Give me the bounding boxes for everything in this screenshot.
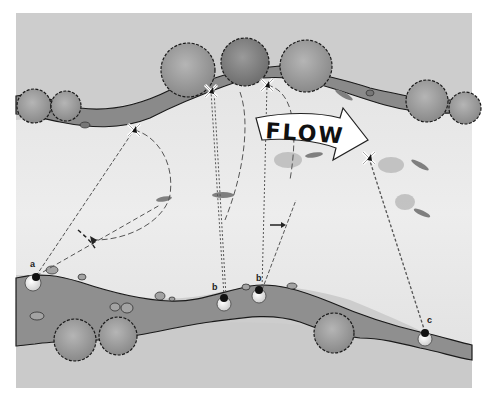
river-fishing-diagram: FLOW a b b c xyxy=(0,0,488,401)
tree xyxy=(17,89,51,123)
bank-rock xyxy=(80,122,90,128)
submerged-rock xyxy=(378,157,404,173)
submerged-rock xyxy=(274,152,302,168)
illustration-frame: FLOW a b b c xyxy=(16,13,481,388)
angler-label: b xyxy=(212,282,218,292)
tree xyxy=(51,91,81,121)
angler-label: b xyxy=(256,273,262,283)
tree xyxy=(406,80,448,122)
tree xyxy=(314,313,354,353)
tree xyxy=(99,317,137,355)
fish xyxy=(212,192,234,198)
tree xyxy=(449,92,481,124)
angler-label: c xyxy=(427,315,432,325)
bank-rock xyxy=(366,90,374,96)
tree xyxy=(280,40,332,92)
submerged-rock xyxy=(395,194,415,210)
tree xyxy=(54,319,96,361)
